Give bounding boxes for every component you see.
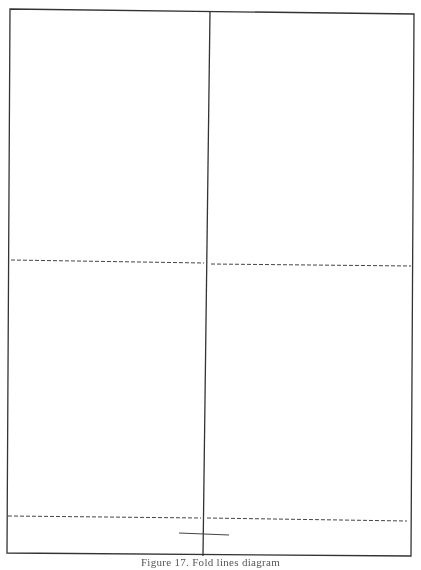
center-tick-mark bbox=[179, 533, 229, 535]
outer-border bbox=[7, 9, 414, 556]
upper-fold-line-left bbox=[11, 260, 204, 263]
fold-diagram bbox=[0, 0, 421, 570]
lower-fold-line-right bbox=[207, 518, 407, 521]
center-vertical-line bbox=[203, 11, 210, 556]
lower-fold-line-left bbox=[8, 516, 201, 518]
figure-caption: Figure 17. Fold lines diagram bbox=[0, 556, 421, 568]
upper-fold-line-right bbox=[211, 264, 411, 266]
